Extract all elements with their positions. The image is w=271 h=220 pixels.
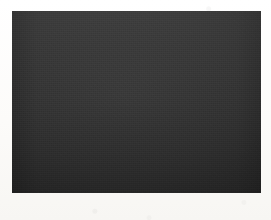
figure-root [0,0,271,220]
oscilloscope-screen-photo [12,11,261,193]
crt-screen-background [12,11,261,193]
